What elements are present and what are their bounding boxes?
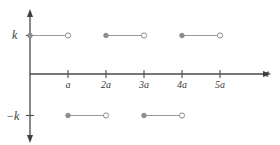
square-wave-plot [0,0,280,145]
x-tick-label-3a: 3a [139,80,149,90]
wave-segment [104,33,147,38]
x-tick-label-5a: 5a [215,80,225,90]
wave-segment [180,33,223,38]
closed-endpoint-marker [66,113,71,118]
x-tick-label-a: a [66,80,71,90]
y-axis-arrow-up-icon [27,9,33,17]
open-endpoint-marker [103,113,108,118]
closed-endpoint-marker [104,33,109,38]
x-axis-label-t: t [266,68,269,79]
open-endpoint-marker [179,113,184,118]
wave-segment [66,113,109,118]
closed-endpoint-marker [180,33,185,38]
open-endpoint-marker [141,33,146,38]
x-tick-label-2a: 2a [101,80,111,90]
y-axis-arrow-down-icon [27,135,33,143]
x-tick-label-4a: 4a [177,80,187,90]
closed-endpoint-marker [142,113,147,118]
figure-square-wave: k −k a 2a 3a 4a 5a t [0,0,280,145]
closed-endpoint-marker [28,33,33,38]
open-endpoint-marker [65,33,70,38]
open-endpoint-marker [217,33,222,38]
y-axis-label-minus-k: −k [6,110,19,122]
y-axis-label-k: k [12,29,17,41]
wave-segment [142,113,185,118]
wave-segment [28,33,71,38]
